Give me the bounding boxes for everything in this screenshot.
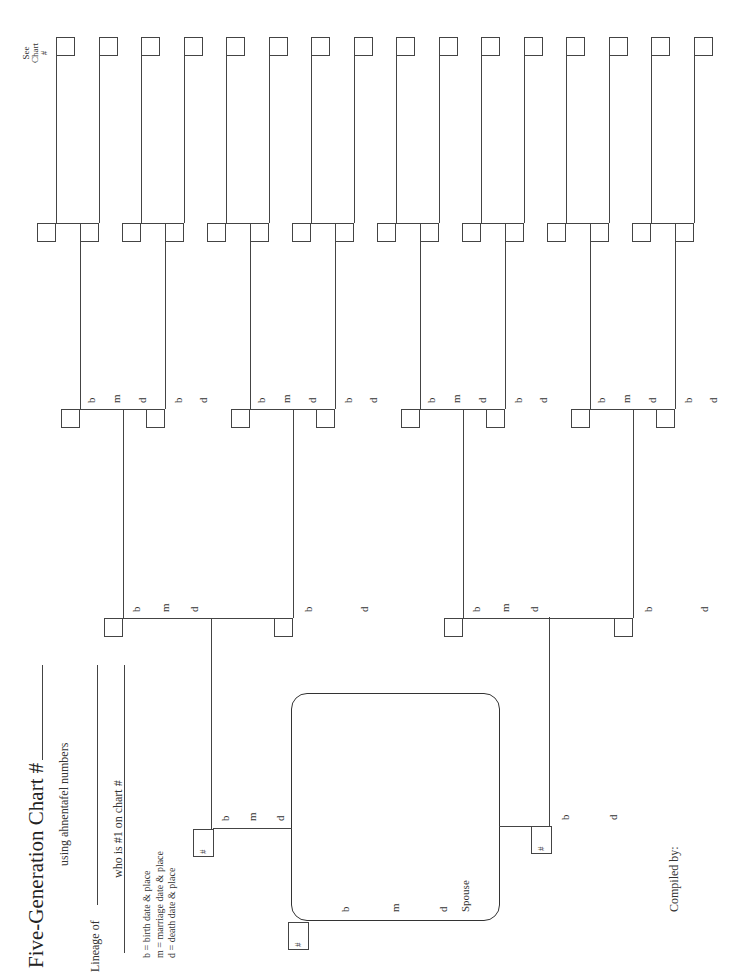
gen2-number-box[interactable] <box>104 618 123 637</box>
gen4-number-box[interactable] <box>335 223 354 242</box>
see-chart-box[interactable] <box>99 37 118 56</box>
person-2-birth-label: b <box>220 816 231 822</box>
see-chart-box[interactable] <box>396 37 415 56</box>
gen2-connector <box>463 618 633 619</box>
number-hash: # <box>199 850 208 855</box>
lineage-label: Lineage of <box>89 920 101 972</box>
gen4-husband-death-label: d <box>137 398 148 404</box>
gen4-connector <box>396 223 439 224</box>
who-is-1-line[interactable] <box>124 665 125 953</box>
gen4-number-box[interactable] <box>632 223 651 242</box>
gen5-line <box>694 56 695 223</box>
see-chart-box[interactable] <box>651 37 670 56</box>
see-chart-box[interactable] <box>524 37 543 56</box>
gen4-number-box[interactable] <box>207 223 226 242</box>
gen5-line <box>609 56 610 223</box>
gen3-number-box[interactable] <box>316 409 335 428</box>
gen4-husband-marriage-label: m <box>111 394 122 403</box>
gen3-husband-death-label: d <box>529 607 540 613</box>
see-chart-box[interactable] <box>481 37 500 56</box>
gen4-husband-birth-label: b <box>256 398 267 404</box>
see-chart-box[interactable] <box>354 37 373 56</box>
gen4-stem <box>250 242 251 409</box>
person-2-line <box>213 828 292 829</box>
gen4-stem <box>505 242 506 409</box>
gen4-wife-death-label: d <box>538 398 549 404</box>
person-1-number-box[interactable]: # <box>288 922 309 950</box>
gen3-stem <box>123 409 124 618</box>
gen4-number-box[interactable] <box>165 223 184 242</box>
gen4-number-box[interactable] <box>37 223 56 242</box>
gen4-number-box[interactable] <box>462 223 481 242</box>
gen3-number-box[interactable] <box>486 409 505 428</box>
see-chart-box[interactable] <box>694 37 713 56</box>
gen4-wife-death-label: d <box>368 398 379 404</box>
gen3-number-box[interactable] <box>231 409 250 428</box>
gen5-line <box>481 56 482 223</box>
person-2-stem <box>211 619 212 829</box>
gen4-number-box[interactable] <box>547 223 566 242</box>
person-2-marriage-label: m <box>247 812 258 821</box>
gen4-number-box[interactable] <box>420 223 439 242</box>
legend-marriage: m = marriage date & place <box>154 851 167 958</box>
gen4-number-box[interactable] <box>377 223 396 242</box>
legend-death: d = death date & place <box>166 851 179 958</box>
gen4-stem <box>420 242 421 409</box>
gen3-number-box[interactable] <box>401 409 420 428</box>
gen4-number-box[interactable] <box>675 223 694 242</box>
see-chart-box[interactable] <box>56 37 75 56</box>
gen3-number-box[interactable] <box>61 409 80 428</box>
gen3-husband-marriage-label: m <box>160 603 171 612</box>
gen4-husband-marriage-label: m <box>281 394 292 403</box>
see-chart-box[interactable] <box>311 37 330 56</box>
see-chart-box[interactable] <box>439 37 458 56</box>
gen3-stem <box>633 409 634 618</box>
gen4-number-box[interactable] <box>122 223 141 242</box>
gen4-husband-marriage-label: m <box>451 394 462 403</box>
person-2-number-box[interactable]: # <box>193 829 214 857</box>
gen4-number-box[interactable] <box>505 223 524 242</box>
person-1-birth-label: b <box>340 907 351 913</box>
gen4-husband-birth-label: b <box>86 398 97 404</box>
gen2-number-box[interactable] <box>444 618 463 637</box>
spouse-label: Spouse <box>460 880 471 912</box>
gen4-number-box[interactable] <box>80 223 99 242</box>
see-chart-box[interactable] <box>269 37 288 56</box>
gen3-stem <box>463 409 464 618</box>
gen3-number-box[interactable] <box>571 409 590 428</box>
gen3-wife-birth-label: b <box>303 607 314 613</box>
see-chart-box[interactable] <box>226 37 245 56</box>
gen4-number-box[interactable] <box>292 223 311 242</box>
chart-number-line[interactable] <box>42 665 43 760</box>
gen2-number-box[interactable] <box>274 618 293 637</box>
gen3-number-box[interactable] <box>656 409 675 428</box>
five-generation-chart-page: Five-Generation Chart # using ahnentafel… <box>0 0 738 973</box>
person-1-death-label: d <box>438 907 449 913</box>
see-chart-box[interactable] <box>184 37 203 56</box>
gen2-number-box[interactable] <box>614 618 633 637</box>
gen4-stem <box>335 242 336 409</box>
gen4-husband-death-label: d <box>307 398 318 404</box>
gen4-connector <box>226 223 269 224</box>
gen5-line <box>226 56 227 223</box>
gen3-number-box[interactable] <box>146 409 165 428</box>
gen3-wife-birth-label: b <box>643 607 654 613</box>
gen3-wife-death-label: d <box>699 607 710 613</box>
gen5-line <box>141 56 142 223</box>
person-1-marriage-label: m <box>390 903 401 912</box>
lineage-input-line[interactable] <box>97 665 98 905</box>
see-chart-box[interactable] <box>141 37 160 56</box>
gen5-line <box>269 56 270 223</box>
person-3-death-label: d <box>608 815 619 821</box>
see-chart-box[interactable] <box>566 37 585 56</box>
see-chart-box[interactable] <box>609 37 628 56</box>
person-3-number-box[interactable]: # <box>531 826 552 854</box>
see-chart-label: See Chart # <box>22 43 49 63</box>
gen4-wife-birth-label: b <box>343 398 354 404</box>
gen4-husband-death-label: d <box>647 398 658 404</box>
gen4-number-box[interactable] <box>590 223 609 242</box>
gen4-number-box[interactable] <box>250 223 269 242</box>
gen4-stem <box>675 242 676 409</box>
gen4-connector <box>651 223 694 224</box>
gen4-husband-death-label: d <box>477 398 488 404</box>
